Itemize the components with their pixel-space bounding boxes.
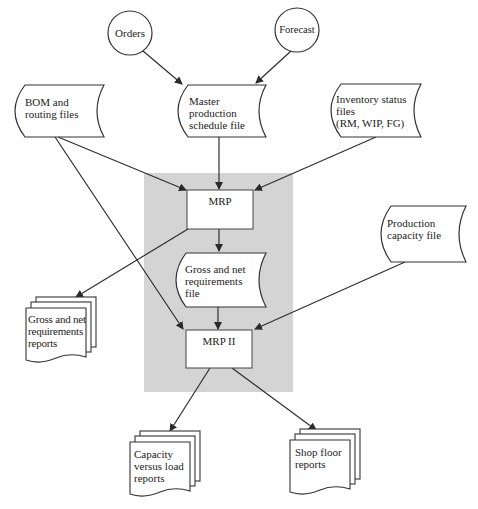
forecast-label: Forecast	[274, 24, 320, 36]
inventory-label: Inventory status files (RM, WIP, FG)	[336, 93, 420, 129]
edge-inventory-mrp	[255, 137, 376, 190]
mrp2-label: MRP II	[186, 335, 252, 347]
edge-orders-mps	[143, 51, 182, 84]
orders-label: Orders	[108, 27, 152, 39]
capacity-file-label: Production capacity file	[387, 217, 467, 241]
mps-label: Master production schedule file	[189, 95, 269, 131]
mrp-label: MRP	[187, 195, 253, 207]
capacity-reports-label: Capacity versus load reports	[134, 448, 196, 484]
bom-label: BOM and routing files	[25, 96, 105, 120]
mrp-system-diagram	[0, 0, 478, 509]
gross-net-file-label: Gross and net requirements file	[185, 263, 265, 299]
shop-floor-reports-label: Shop floor reports	[295, 446, 357, 470]
edge-bom-mrp	[58, 137, 186, 190]
gross-net-reports-label: Gross and net requirements reports	[28, 313, 96, 349]
edge-forecast-mps	[256, 51, 291, 83]
